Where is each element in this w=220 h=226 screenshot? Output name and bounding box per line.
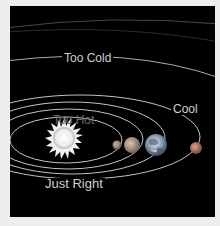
- outer-orbit-2: [10, 30, 215, 42]
- cool-label: Cool: [171, 103, 200, 115]
- too-hot-label: Too Hot: [51, 114, 96, 126]
- habitable-zone-diagram: Too Cold Cool Too Hot Just Right: [10, 6, 215, 217]
- venus-planet: [124, 137, 140, 153]
- mars-planet: [190, 142, 202, 154]
- outer-orbit-1: [10, 20, 215, 28]
- earth-planet: [145, 134, 167, 156]
- too-cold-label: Too Cold: [62, 52, 113, 64]
- just-right-label: Just Right: [43, 178, 105, 190]
- mercury-planet: [113, 141, 122, 150]
